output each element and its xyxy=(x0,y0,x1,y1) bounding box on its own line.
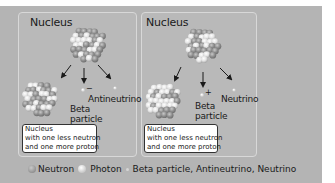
nucleus-title: Nucleus xyxy=(30,16,72,29)
result-box-line: with one less neutron xyxy=(25,134,94,143)
proton xyxy=(86,55,93,62)
result-nucleus-box: Nucleus with one less neutron and one mo… xyxy=(144,124,218,153)
result-box-line: and one more proton xyxy=(25,143,94,152)
beta-label-line1: Beta xyxy=(70,104,90,114)
result-box-line: Nucleus xyxy=(25,125,94,134)
legend-item-photon: Photon xyxy=(78,164,121,174)
result-box-line: with one less neutron xyxy=(147,134,215,143)
neutron xyxy=(92,56,99,63)
neutron xyxy=(38,110,45,117)
neutron-icon xyxy=(28,165,36,173)
legend-item-neutron: Neutron xyxy=(28,164,74,174)
legend-label: Neutron xyxy=(38,164,74,174)
small-particle-icon xyxy=(126,168,129,171)
result-box-line: and one more proton xyxy=(147,143,215,152)
beta-particle-label: Beta particle xyxy=(195,101,227,121)
arrow-to-daughter-nucleus xyxy=(62,65,71,77)
antineutrino-label: Antineutrino xyxy=(88,94,141,104)
beta-charge-sign: − xyxy=(86,84,93,94)
arrow-to-antineutrino xyxy=(98,65,110,78)
result-box-line: Nucleus xyxy=(147,125,215,134)
antineutrino-particle xyxy=(113,86,116,89)
legend-item-small-particles: Beta particle, Antineutrino, Neutrino xyxy=(126,164,297,174)
beta-particle xyxy=(81,88,85,92)
beta-charge-sign: + xyxy=(205,88,212,98)
parent-nucleus xyxy=(70,28,106,63)
photon-icon xyxy=(78,165,86,173)
legend-label: Beta particle, Antineutrino, Neutrino xyxy=(133,164,297,174)
proton xyxy=(201,56,208,63)
nucleus-title: Nucleus xyxy=(146,16,188,29)
daughter-nucleus xyxy=(146,84,181,119)
result-nucleus-box: Nucleus with one less neutron and one mo… xyxy=(22,124,97,153)
neutrino-particle xyxy=(232,88,235,91)
neutron xyxy=(161,111,168,118)
parent-nucleus xyxy=(185,29,222,64)
neutron xyxy=(209,52,216,59)
legend: Neutron Photon Beta particle, Antineutri… xyxy=(28,164,300,174)
beta-label-line2: particle xyxy=(195,111,227,121)
beta-particle xyxy=(200,93,204,97)
beta-label-line2: particle xyxy=(70,114,102,124)
beta-particle-label: Beta particle xyxy=(70,104,102,124)
daughter-nucleus xyxy=(22,82,58,117)
neutron xyxy=(44,109,51,116)
neutron xyxy=(167,112,174,119)
beta-label-line1: Beta xyxy=(195,101,215,111)
legend-label: Photon xyxy=(90,164,121,174)
arrow-to-neutrino xyxy=(220,68,231,79)
arrow-to-daughter-nucleus xyxy=(175,67,181,80)
